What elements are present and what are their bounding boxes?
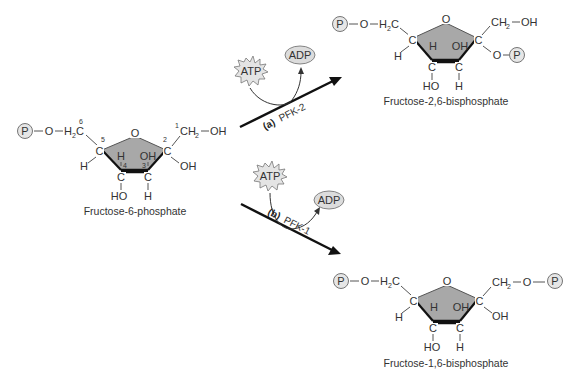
svg-text:2: 2 [163,136,167,143]
svg-text:P: P [513,49,520,61]
svg-text:H: H [395,311,403,323]
svg-text:HO: HO [424,341,441,353]
svg-text:H: H [379,18,387,30]
svg-text:HO: HO [111,190,128,202]
svg-text:H: H [394,50,402,62]
enzyme-pfk2: PFK-2 [277,101,308,124]
svg-text:C: C [455,61,463,73]
svg-text:HO: HO [423,80,440,92]
svg-text:O: O [45,125,54,137]
svg-text:OH: OH [453,301,470,313]
svg-text:C: C [409,34,417,46]
svg-text:P: P [337,275,344,287]
svg-text:H: H [80,160,88,172]
svg-text:O: O [131,127,140,139]
product-a-label: Fructose-2,6-bisphosphate [384,95,509,107]
svg-text:O: O [361,275,370,287]
svg-text:C: C [475,34,483,46]
svg-text:5: 5 [101,136,105,143]
svg-text:OH: OH [140,150,157,162]
svg-text:C: C [410,295,418,307]
svg-text:C: C [429,322,437,334]
svg-text:OH: OH [492,310,509,322]
svg-text:O: O [443,275,452,287]
svg-text:4: 4 [123,162,127,169]
reaction-b: ATP ADP (b) PFK-1 [241,161,344,255]
svg-text:H: H [144,190,152,202]
svg-text:3: 3 [142,162,146,169]
svg-text:H: H [64,125,72,137]
svg-text:O: O [360,18,369,30]
svg-text:ATP: ATP [241,65,262,77]
svg-text:C: C [144,171,152,183]
svg-text:O: O [493,49,502,61]
svg-text:H: H [455,80,463,92]
svg-text:H: H [430,301,438,313]
svg-text:P: P [551,275,558,287]
substrate-label: Fructose-6-phosphate [84,205,187,217]
svg-text:C: C [456,322,464,334]
svg-text:C: C [96,145,104,157]
svg-text:CH: CH [180,125,196,137]
reaction-a: ATP ADP (a) PFK-2 [234,46,342,132]
svg-text:H: H [117,150,125,162]
svg-text:CH: CH [492,276,508,288]
svg-text:C: C [428,61,436,73]
svg-text:(a): (a) [261,116,277,131]
svg-text:1: 1 [175,122,179,129]
reaction-diagram: P O H 2 C 6 O C 5 H C 2 1 CH 2 OH OH H [0,0,579,375]
svg-text:2: 2 [507,283,511,290]
fructose-6-phosphate-structure: P O H 2 C 6 O C 5 H C 2 1 CH 2 OH OH H [18,118,227,202]
svg-text:H: H [380,275,388,287]
arrow-head-icon [328,246,341,255]
svg-text:6: 6 [79,118,83,125]
svg-text:ADP: ADP [289,49,312,61]
svg-text:O: O [523,276,532,288]
svg-text:OH: OH [452,40,469,52]
svg-text:O: O [442,13,451,25]
fructose-2-6-bisphosphate-structure: P O H 2 C O C H C CH 2 OH O P H OH C C [333,13,538,92]
svg-text:C: C [476,295,484,307]
svg-text:2: 2 [195,132,199,139]
svg-text:C: C [76,125,84,137]
furanose-ring [102,136,166,170]
svg-text:C: C [392,275,400,287]
fructose-1-6-bisphosphate-structure: P O H 2 C O C H C CH 2 O P OH H OH C C [334,274,563,354]
svg-text:OH: OH [210,125,227,137]
svg-text:P: P [336,18,343,30]
svg-text:CH: CH [491,16,507,28]
svg-text:OH: OH [180,160,197,172]
svg-text:C: C [391,18,399,30]
svg-text:OH: OH [521,16,538,28]
svg-text:H: H [429,40,437,52]
product-b-label: Fructose-1,6-bisphosphate [384,357,509,369]
svg-text:C: C [164,145,172,157]
svg-text:H: H [456,341,464,353]
svg-text:P: P [21,125,28,137]
svg-text:ATP: ATP [260,170,281,182]
svg-text:2: 2 [506,23,510,30]
svg-text:C: C [117,171,125,183]
svg-text:ADP: ADP [318,194,341,206]
